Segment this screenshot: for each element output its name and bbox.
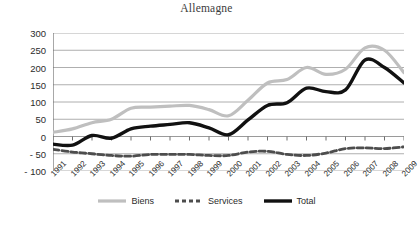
line-swatch-solid-black	[263, 196, 293, 206]
legend-item-services[interactable]: Services	[174, 196, 243, 206]
chart-title: Allemagne	[0, 2, 413, 14]
x-axis-labels: 1991199219931994199519961997199819992000…	[53, 172, 404, 212]
y-axis-tick-label: - 100	[24, 166, 46, 177]
y-axis-tick-label: 100	[30, 97, 46, 108]
legend-item-total[interactable]: Total	[263, 196, 316, 206]
y-axis-tick-label: 300	[30, 28, 46, 39]
chart-plot-svg	[53, 33, 404, 171]
plot-area	[53, 33, 404, 171]
y-axis-tick-label: - 50	[30, 148, 46, 159]
y-axis-tick-label: 200	[30, 62, 46, 73]
legend-label: Biens	[131, 196, 154, 206]
y-axis-labels: 300250200150100500- 50- 100	[0, 33, 50, 171]
legend-label: Services	[208, 196, 243, 206]
y-axis-tick-label: 250	[30, 45, 46, 56]
chart-legend: BiensServicesTotal	[0, 196, 413, 206]
legend-item-biens[interactable]: Biens	[97, 196, 154, 206]
y-axis-tick-label: 50	[35, 114, 46, 125]
y-axis-tick-label: 150	[30, 79, 46, 90]
legend-label: Total	[297, 196, 316, 206]
line-swatch-solid-gray	[97, 196, 127, 206]
series-line-services	[53, 147, 404, 156]
line-swatch-dashed-dark	[174, 196, 204, 206]
y-axis-tick-label: 0	[41, 131, 46, 142]
